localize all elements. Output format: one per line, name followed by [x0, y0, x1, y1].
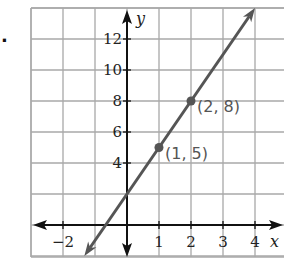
x-tick-label: 4: [250, 233, 260, 251]
x-tick-label: 1: [154, 233, 164, 251]
tick-labels: −212344681012: [52, 30, 260, 251]
problem-marker: .: [1, 25, 8, 46]
data-point: [155, 143, 164, 152]
x-tick-label: 3: [218, 233, 228, 251]
y-tick-label: 10: [103, 61, 122, 79]
y-tick-label: 4: [112, 154, 122, 172]
grid: [31, 8, 284, 257]
data-point-label: (2, 8): [197, 97, 240, 116]
data-point: [187, 97, 196, 106]
x-tick-label: −2: [52, 233, 74, 251]
x-tick-label: 2: [186, 233, 196, 251]
y-tick-label: 6: [112, 123, 122, 141]
data-points: (1, 5)(2, 8): [155, 97, 241, 163]
line-arrow-up-icon: [243, 8, 255, 22]
axes: [33, 10, 283, 257]
y-tick-label: 12: [103, 30, 122, 48]
graph: . −212344681012 (1, 5)(2, 8) x y: [0, 0, 284, 267]
data-point-label: (1, 5): [165, 144, 208, 163]
y-axis-label: y: [135, 9, 146, 28]
x-axis-label: x: [270, 232, 279, 251]
y-tick-label: 8: [112, 92, 122, 110]
